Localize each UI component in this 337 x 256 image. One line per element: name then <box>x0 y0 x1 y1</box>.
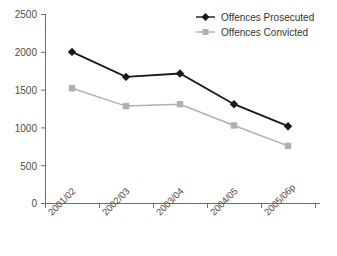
chart-legend: Offences Prosecuted Offences Convicted <box>196 12 314 38</box>
y-tick-label-2000: 2000 <box>15 47 38 58</box>
y-tick-label-1500: 1500 <box>15 85 38 96</box>
x-tick-label-2005-06p: 2005/06p <box>262 182 298 218</box>
legend-entry-prosecuted: Offences Prosecuted <box>196 12 314 23</box>
series-offences-convicted <box>69 85 291 149</box>
data-point-square <box>285 143 291 149</box>
y-tick-label-500: 500 <box>20 161 37 172</box>
y-tick-label-0: 0 <box>31 198 37 209</box>
series-line <box>72 52 288 126</box>
x-tick-label-2004-05: 2004/05 <box>208 185 240 217</box>
square-marker-icon <box>203 29 209 35</box>
chart-canvas: 2500 2000 1500 1000 500 0 2001/02 2002/0… <box>0 0 337 256</box>
data-point-square <box>69 85 75 91</box>
data-point-diamond <box>122 73 130 81</box>
series-line <box>72 88 288 146</box>
y-axis-ticks <box>41 15 45 204</box>
line-chart: 2500 2000 1500 1000 500 0 2001/02 2002/0… <box>0 0 337 256</box>
legend-entry-convicted: Offences Convicted <box>196 27 308 38</box>
y-tick-label-1000: 1000 <box>15 123 38 134</box>
data-point-diamond <box>68 48 76 56</box>
data-point-diamond <box>230 100 238 108</box>
series-offences-prosecuted <box>68 48 292 131</box>
x-tick-label-2001-02: 2001/02 <box>46 185 78 217</box>
data-point-diamond <box>176 69 184 77</box>
diamond-marker-icon <box>202 13 210 21</box>
data-point-diamond <box>284 122 292 130</box>
y-axis-labels: 2500 2000 1500 1000 500 0 <box>15 9 38 209</box>
data-point-square <box>177 101 183 107</box>
x-tick-label-2003-04: 2003/04 <box>154 185 186 217</box>
x-axis-labels: 2001/02 2002/03 2003/04 2004/05 2005/06p <box>46 182 298 218</box>
legend-label-prosecuted: Offences Prosecuted <box>221 12 314 23</box>
y-tick-label-2500: 2500 <box>15 9 38 20</box>
x-tick-label-2002-03: 2002/03 <box>100 185 132 217</box>
data-point-square <box>123 103 129 109</box>
legend-label-convicted: Offences Convicted <box>221 27 308 38</box>
data-point-square <box>231 122 237 128</box>
